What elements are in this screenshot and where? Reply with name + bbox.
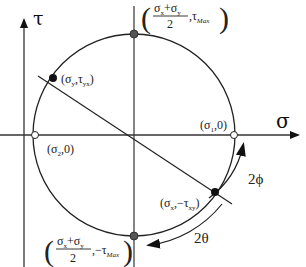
svg-text:2: 2: [70, 251, 76, 265]
svg-text:): ): [219, 1, 229, 35]
label-sigma-1: (σ1,0): [200, 118, 227, 134]
svg-text:,τMax: ,τMax: [189, 9, 210, 25]
point-sigma-y: [49, 74, 57, 82]
label-sigma-x: (σx,−τxy): [160, 196, 200, 212]
svg-text:): ): [123, 234, 133, 267]
label-2phi: 2ϕ: [248, 171, 264, 187]
svg-text:,−τMax: ,−τMax: [92, 243, 120, 259]
label-sigma-y: (σy,τyx): [61, 72, 94, 88]
svg-text:2: 2: [167, 17, 173, 31]
svg-text:σx+σy: σx+σy: [57, 234, 84, 250]
point-sigma-2: [32, 132, 39, 139]
mohrs-circle-diagram: τ σ ( σx+σy 2 ,τMax ) ( σx+σy 2 ,−τMax )…: [0, 0, 306, 267]
label-sigma-2: (σ2,0): [47, 142, 74, 158]
label-bottom-tau-max: ( σx+σy 2 ,−τMax ): [44, 234, 133, 267]
point-sigma-1: [231, 132, 238, 139]
tau-axis-label: τ: [33, 7, 44, 29]
diameter-line: [38, 76, 232, 204]
point-top-tau-max: [130, 30, 138, 38]
arc-2theta: [150, 204, 222, 245]
sigma-axis-label: σ: [276, 109, 290, 133]
svg-text:σx+σy: σx+σy: [154, 1, 181, 17]
label-top-tau-max: ( σx+σy 2 ,τMax ): [141, 1, 229, 35]
label-2theta: 2θ: [194, 230, 209, 246]
point-sigma-x: [211, 188, 219, 196]
svg-text:(: (: [44, 234, 54, 267]
svg-text:(: (: [141, 1, 151, 35]
